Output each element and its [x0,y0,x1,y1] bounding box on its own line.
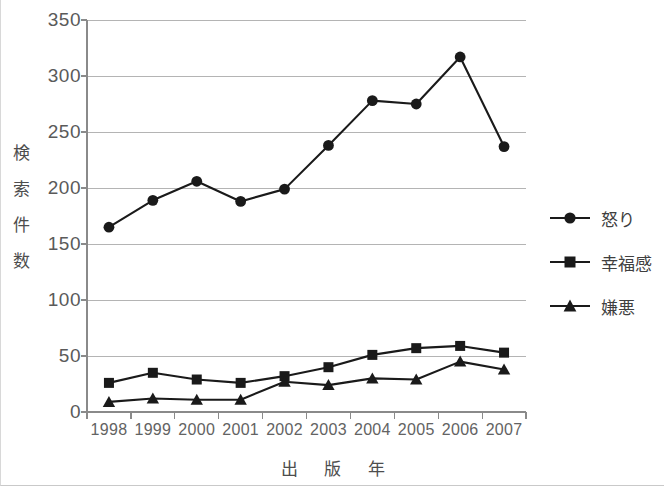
data-point-circle [235,196,246,207]
data-point-square [411,343,421,353]
legend-label-anger: 怒り [601,206,635,231]
data-point-circle [279,184,290,195]
legend-label-happiness: 幸福感 [601,250,652,275]
x-axis-tick-label: 2007 [478,421,530,439]
data-point-circle [411,99,422,110]
data-point-circle [455,52,466,63]
data-point-square [236,378,246,388]
data-point-circle [147,195,158,206]
data-point-square [323,362,333,372]
data-point-circle [191,176,202,187]
series-circle [104,52,510,233]
data-point-circle [367,95,378,106]
data-point-square [367,350,377,360]
legend-item-disgust: 嫌悪 [549,284,661,328]
x-axis-tick-labels: 1998199920002001200220032004200520062007 [87,421,527,447]
legend-marker-circle-icon [549,209,591,227]
x-axis-title: 出 版 年 [1,455,664,480]
series-square [104,341,509,388]
data-point-square [148,368,158,378]
data-point-square [499,348,509,358]
series-line [109,346,504,383]
data-point-circle [499,141,510,152]
legend-marker-triangle-icon [549,297,591,315]
data-point-square [455,341,465,351]
data-point-square [104,378,114,388]
legend-item-happiness: 幸福感 [549,240,661,284]
data-point-circle [323,140,334,151]
chart-figure: 検 索 件 数 050100150200250300350 1998199920… [0,0,664,486]
series-triangle [103,356,511,407]
legend-marker-square-icon [549,253,591,271]
data-point-square [192,375,202,385]
series-line [109,362,504,402]
legend-label-disgust: 嫌悪 [601,294,635,319]
legend-item-anger: 怒り [549,196,661,240]
series-line [109,57,504,227]
data-point-triangle [454,356,466,367]
legend: 怒り 幸福感 嫌悪 [549,196,661,328]
data-point-circle [104,222,115,233]
